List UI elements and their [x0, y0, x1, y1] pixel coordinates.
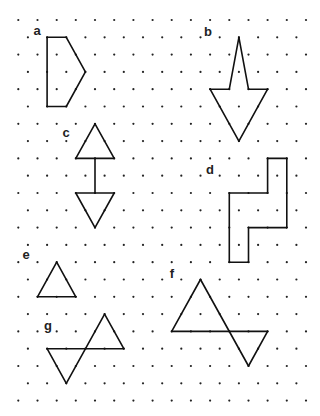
grid-dot: [238, 71, 240, 73]
shape-edge: [172, 280, 201, 332]
grid-dot: [257, 175, 259, 177]
grid-dot: [295, 278, 297, 280]
grid-dot: [123, 244, 125, 246]
grid-dot: [142, 175, 144, 177]
grid-dot: [17, 365, 19, 367]
grid-dot: [142, 348, 144, 350]
grid-dot: [17, 296, 19, 298]
grid-dot: [199, 382, 201, 384]
grid-dot: [295, 105, 297, 107]
grid-dot: [267, 19, 269, 21]
grid-dot: [132, 261, 134, 263]
grid-dot: [113, 365, 115, 367]
grid-dot: [27, 209, 29, 211]
grid-dot: [17, 400, 19, 402]
grid-dot: [113, 88, 115, 90]
grid-dot: [65, 209, 67, 211]
grid-dot: [276, 313, 278, 315]
grid-dot: [113, 400, 115, 402]
grid-dot: [209, 123, 211, 125]
grid-dot: [17, 123, 19, 125]
grid-dot: [190, 123, 192, 125]
grid-dot: [56, 227, 58, 229]
grid-dot: [219, 382, 221, 384]
grid-dot: [142, 313, 144, 315]
grid-dot: [56, 192, 58, 194]
grid-dot: [171, 123, 173, 125]
grid-dot: [132, 400, 134, 402]
grid-dot: [84, 36, 86, 38]
grid-dot: [171, 54, 173, 56]
grid-dot: [238, 209, 240, 211]
shape-b: [210, 37, 268, 141]
grid-dot: [36, 192, 38, 194]
grid-dot: [142, 71, 144, 73]
grid-dot: [56, 19, 58, 21]
grid-dot: [113, 227, 115, 229]
grid-dot: [36, 54, 38, 56]
grid-dot: [104, 382, 106, 384]
grid-dot: [132, 365, 134, 367]
grid-dot: [305, 54, 307, 56]
grid-dot: [65, 175, 67, 177]
grid-dot: [276, 71, 278, 73]
grid-dot: [75, 330, 77, 332]
grid-dot: [94, 19, 96, 21]
grid-dot: [267, 54, 269, 56]
grid-dot: [276, 244, 278, 246]
grid-dot: [123, 209, 125, 211]
shape-f: [172, 280, 268, 367]
grid-dot: [65, 313, 67, 315]
grid-dot: [257, 140, 259, 142]
grid-dot: [132, 19, 134, 21]
grid-dot: [199, 209, 201, 211]
grid-dot: [56, 157, 58, 159]
grid-dot: [209, 54, 211, 56]
grid-dot: [219, 244, 221, 246]
grid-dot: [75, 261, 77, 263]
shape-edge: [38, 262, 57, 297]
shape-c: [76, 124, 114, 228]
grid-dot: [36, 400, 38, 402]
shape-edge: [95, 193, 114, 228]
shape-edge: [229, 37, 239, 89]
grid-dot: [152, 330, 154, 332]
grid-dot: [190, 261, 192, 263]
grid-dot: [238, 105, 240, 107]
shape-edge: [76, 193, 95, 228]
grid-dot: [180, 71, 182, 73]
shape-edge: [239, 89, 268, 141]
grid-dot: [171, 400, 173, 402]
grid-dot: [190, 54, 192, 56]
grid-dot: [286, 400, 288, 402]
grid-dot: [94, 296, 96, 298]
grid-dot: [190, 88, 192, 90]
grid-dot: [161, 348, 163, 350]
grid-dot: [286, 365, 288, 367]
grid-dot: [276, 348, 278, 350]
grid-dot: [56, 400, 58, 402]
grid-dot: [199, 175, 201, 177]
grid-dot: [180, 105, 182, 107]
grid-dot: [142, 278, 144, 280]
grid-dot: [142, 105, 144, 107]
grid-dot: [199, 244, 201, 246]
grid-dot: [209, 261, 211, 263]
shape-edge: [57, 262, 76, 297]
grid-dot: [305, 157, 307, 159]
grid-dot: [199, 71, 201, 73]
grid-dot: [113, 19, 115, 21]
grid-dot: [228, 365, 230, 367]
grid-dot: [180, 209, 182, 211]
grid-dot: [228, 19, 230, 21]
grid-dot: [161, 382, 163, 384]
grid-dot: [94, 400, 96, 402]
grid-dot: [17, 19, 19, 21]
grid-dot: [209, 157, 211, 159]
grid-dot: [152, 19, 154, 21]
grid-dot: [190, 157, 192, 159]
grid-dot: [238, 382, 240, 384]
grid-dot: [36, 123, 38, 125]
grid-dot: [209, 192, 211, 194]
grid-dot: [238, 175, 240, 177]
